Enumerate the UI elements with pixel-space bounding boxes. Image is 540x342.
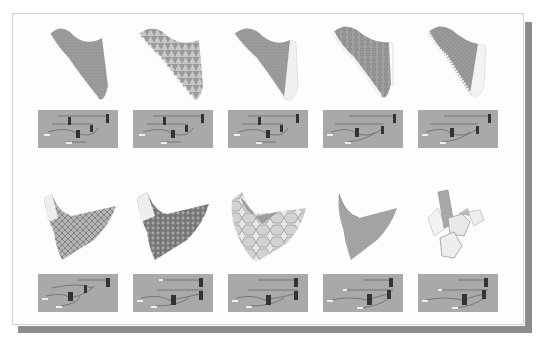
node-diagram bbox=[38, 274, 118, 312]
surface-render bbox=[228, 22, 310, 104]
node-diagram bbox=[418, 110, 498, 148]
surface-render bbox=[38, 22, 120, 104]
node-diagram bbox=[38, 110, 118, 148]
surface-render bbox=[38, 188, 120, 270]
node-diagram bbox=[228, 110, 308, 148]
node-diagram bbox=[133, 110, 213, 148]
frame-shadow-bottom bbox=[18, 326, 532, 333]
surface-render bbox=[133, 22, 215, 104]
node-diagram bbox=[323, 110, 403, 148]
node-diagram bbox=[418, 274, 498, 312]
surface-render bbox=[323, 22, 405, 104]
surface-render bbox=[418, 22, 500, 104]
surface-render bbox=[228, 188, 310, 270]
frame-shadow-right bbox=[525, 22, 532, 333]
node-diagram bbox=[228, 274, 308, 312]
node-diagram bbox=[323, 274, 403, 312]
surface-render bbox=[418, 188, 500, 270]
surface-render bbox=[323, 188, 405, 270]
surface-render bbox=[133, 188, 215, 270]
node-diagram bbox=[133, 274, 213, 312]
